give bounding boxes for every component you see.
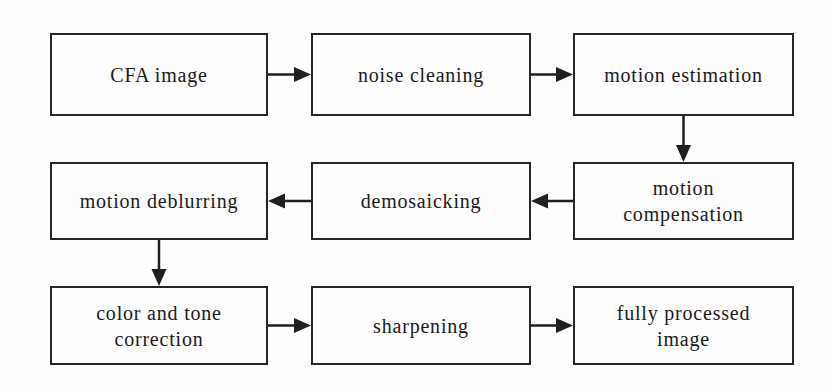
arrow-noise-cleaning-to-motion-estimation — [531, 67, 573, 82]
node-fully-processed-image: fully processed image — [573, 286, 794, 365]
node-color-tone-correction-label: color and tone correction — [96, 300, 222, 352]
arrow-motion-compensation-to-demosaicking — [531, 194, 573, 209]
node-sharpening-label: sharpening — [373, 313, 469, 339]
node-motion-compensation: motion compensation — [573, 162, 794, 240]
node-sharpening: sharpening — [311, 286, 531, 365]
node-noise-cleaning: noise cleaning — [311, 33, 531, 116]
arrow-motion-deblurring-to-color-tone-correction — [152, 240, 167, 286]
node-motion-estimation: motion estimation — [573, 33, 794, 116]
node-motion-estimation-label: motion estimation — [604, 62, 763, 88]
node-demosaicking-label: demosaicking — [361, 188, 482, 214]
arrow-demosaicking-to-motion-deblurring — [268, 194, 311, 209]
arrow-sharpening-to-fully-processed-image — [531, 318, 573, 333]
node-motion-deblurring: motion deblurring — [50, 162, 268, 240]
node-motion-compensation-label: motion compensation — [623, 175, 744, 227]
arrow-motion-estimation-to-motion-compensation — [676, 116, 691, 162]
node-demosaicking: demosaicking — [311, 162, 531, 240]
node-cfa-image: CFA image — [50, 33, 268, 116]
node-fully-processed-image-label: fully processed image — [617, 300, 751, 352]
flowchart-canvas: CFA image noise cleaning motion estimati… — [0, 0, 836, 391]
node-noise-cleaning-label: noise cleaning — [358, 62, 484, 88]
node-color-tone-correction: color and tone correction — [50, 286, 268, 365]
node-motion-deblurring-label: motion deblurring — [80, 188, 239, 214]
arrow-color-tone-correction-to-sharpening — [268, 318, 311, 333]
arrow-cfa-to-noise-cleaning — [268, 67, 311, 82]
node-cfa-image-label: CFA image — [110, 62, 207, 88]
